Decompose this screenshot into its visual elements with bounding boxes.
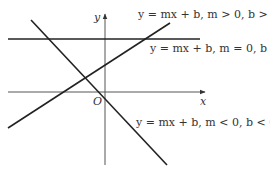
label-zero-slope: y = mx + b, m = 0, b > 0 (149, 42, 270, 55)
y-axis-label: y (93, 11, 101, 24)
x-axis-label: x (200, 95, 207, 108)
line-diagram: y x O y = mx + b, m > 0, b > 0 y = mx + … (0, 0, 270, 169)
origin-label: O (93, 95, 102, 108)
label-negative-slope: y = mx + b, m < 0, b < 0 (135, 116, 270, 129)
label-positive-slope: y = mx + b, m > 0, b > 0 (137, 8, 270, 21)
